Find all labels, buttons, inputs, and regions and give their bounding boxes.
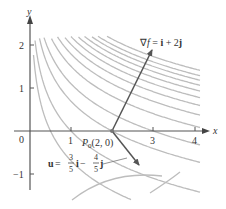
- x-tick-label-3: 3: [150, 135, 155, 146]
- svg-text:−: −: [80, 158, 86, 169]
- svg-text:5: 5: [94, 165, 98, 174]
- svg-text:3: 3: [69, 153, 73, 162]
- unit-vector-label: u = 3 5 i − 4 5 j: [48, 153, 103, 174]
- x-axis-label: x: [212, 125, 218, 136]
- point-p0: [110, 129, 114, 133]
- svg-text:=: =: [55, 158, 61, 169]
- svg-text:j: j: [99, 158, 103, 169]
- level-curves: [34, 36, 201, 200]
- x-axis-arrow-icon: [202, 128, 210, 134]
- y-tick-label-2: 2: [19, 40, 24, 51]
- level-curve-diagram: y x 0 1 3 4 2 1 −1 P0(2, 0) ∇f = i + 2j …: [0, 0, 226, 209]
- svg-text:5: 5: [69, 165, 73, 174]
- y-axis-label: y: [26, 6, 32, 17]
- x-tick-label-1: 1: [68, 135, 73, 146]
- y-tick-label-minus-1: −1: [13, 169, 24, 180]
- x-tick-label-4: 4: [192, 135, 197, 146]
- gradient-label: ∇f = i + 2j: [139, 37, 182, 48]
- svg-text:i: i: [76, 158, 79, 169]
- svg-text:u: u: [48, 158, 54, 169]
- svg-text:4: 4: [94, 153, 98, 162]
- point-label: P0(2, 0): [81, 137, 113, 150]
- origin-label: 0: [19, 134, 24, 145]
- unit-vector: [112, 131, 139, 165]
- y-tick-label-1: 1: [19, 83, 24, 94]
